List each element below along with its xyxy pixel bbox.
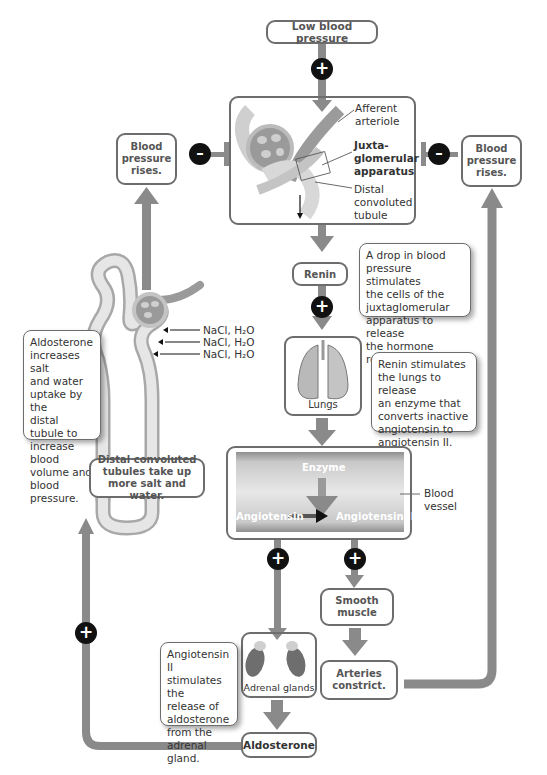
inhibit-icon-left: – bbox=[189, 143, 211, 165]
label-blood-vessel: Blood vessel bbox=[424, 487, 457, 513]
label-angiotensin-ii: Angiotensin II bbox=[336, 510, 414, 523]
node-lungs: Lungs bbox=[284, 336, 362, 416]
node-bp-rises-left: Blood pressure rises. bbox=[116, 133, 177, 185]
node-aldosterone: Aldosterone bbox=[241, 732, 317, 758]
node-distal-tubules: Distal convoluted tubules take up more s… bbox=[89, 458, 205, 498]
label-enzyme: Enzyme bbox=[302, 461, 346, 474]
label-distal-convoluted-tubule: Distal convoluted tubule bbox=[354, 183, 412, 222]
label-afferent-arteriole: Afferent arteriole bbox=[355, 102, 399, 128]
label-angiotensin: Angiotensin bbox=[236, 510, 304, 523]
note-angiotensin-ii: Angiotensin II stimulates the release of… bbox=[160, 642, 238, 726]
node-arteries-constrict: Arteries constrict. bbox=[320, 660, 398, 700]
stimulate-icon: + bbox=[267, 548, 289, 570]
note-renin: A drop in blood pressure stimulates the … bbox=[359, 243, 471, 317]
node-renin: Renin bbox=[292, 262, 348, 286]
note-aldosterone: Aldosterone increases salt and water upt… bbox=[23, 330, 101, 440]
stimulate-icon: + bbox=[344, 548, 366, 570]
label-nacl-h2o-3: NaCl, H₂O bbox=[203, 348, 255, 361]
stimulate-icon: + bbox=[75, 622, 97, 644]
node-adrenal-glands: Adrenal glands bbox=[241, 632, 317, 698]
stimulate-icon: + bbox=[311, 296, 333, 318]
label-juxtaglomerular-apparatus: Juxta- glomerular apparatus bbox=[354, 139, 419, 178]
stimulate-icon: + bbox=[311, 58, 333, 80]
node-low-blood-pressure: Low blood pressure bbox=[266, 20, 378, 44]
inhibit-icon-right: – bbox=[428, 143, 450, 165]
node-bp-rises-right: Blood pressure rises. bbox=[461, 135, 522, 187]
note-lungs: Renin stimulates the lungs to release an… bbox=[371, 352, 477, 432]
node-smooth-muscle: Smooth muscle bbox=[320, 588, 394, 626]
